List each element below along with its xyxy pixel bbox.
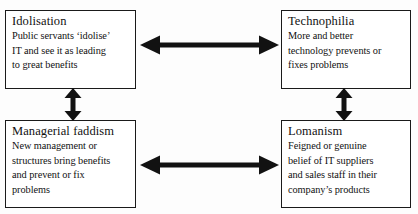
node-idolisation-title: Idolisation xyxy=(12,14,135,29)
double-arrow-icon-technophilia-lomanism xyxy=(332,88,356,121)
concept-map-diagram: Idolisation Public servants ‘idolise’ IT… xyxy=(0,0,418,214)
node-lomanism-line-3: and sales staff in their xyxy=(288,168,410,183)
node-lomanism-line-1: Feigned or genuine xyxy=(288,139,410,154)
node-managerial-faddism-line-4: problems xyxy=(12,183,135,198)
node-managerial-faddism-line-3: and prevent or fix xyxy=(12,168,135,183)
node-technophilia-title: Technophilia xyxy=(288,14,410,29)
node-lomanism-line-4: company’s products xyxy=(288,183,410,198)
node-technophilia-line-1: More and better xyxy=(288,29,410,44)
double-arrow-icon-idolisation-managerial xyxy=(61,88,85,121)
node-idolisation-line-2: IT and see it as leading xyxy=(12,44,135,59)
node-idolisation-body: Public servants ‘idolise’ IT and see it … xyxy=(12,29,135,73)
node-lomanism-title: Lomanism xyxy=(288,124,410,139)
node-lomanism: Lomanism Feigned or genuine belief of IT… xyxy=(281,120,411,208)
node-lomanism-body: Feigned or genuine belief of IT supplier… xyxy=(288,139,410,197)
node-technophilia-line-3: fixes problems xyxy=(288,58,410,73)
node-managerial-faddism-line-1: New management or xyxy=(12,139,135,154)
node-managerial-faddism: Managerial faddism New management or str… xyxy=(5,120,136,208)
double-arrow-icon-idolisation-technophilia xyxy=(140,33,279,57)
node-technophilia-line-2: technology prevents or xyxy=(288,44,410,59)
double-arrow-icon-managerial-lomanism xyxy=(140,153,279,177)
node-technophilia: Technophilia More and better technology … xyxy=(281,10,411,89)
node-idolisation-line-3: to great benefits xyxy=(12,58,135,73)
node-managerial-faddism-title: Managerial faddism xyxy=(12,124,135,139)
node-idolisation-line-1: Public servants ‘idolise’ xyxy=(12,29,135,44)
node-managerial-faddism-line-2: structures bring benefits xyxy=(12,154,135,169)
node-managerial-faddism-body: New management or structures bring benef… xyxy=(12,139,135,197)
node-lomanism-line-2: belief of IT suppliers xyxy=(288,154,410,169)
node-technophilia-body: More and better technology prevents or f… xyxy=(288,29,410,73)
node-idolisation: Idolisation Public servants ‘idolise’ IT… xyxy=(5,10,136,89)
